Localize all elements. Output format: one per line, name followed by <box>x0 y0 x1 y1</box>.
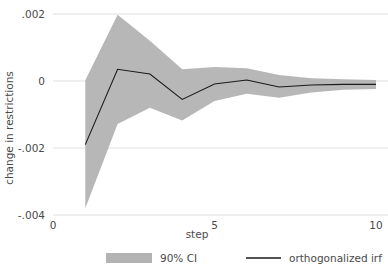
x-axis-title: step <box>186 228 209 240</box>
x-tick-label: 10 <box>369 219 382 231</box>
x-tick-label: 5 <box>211 219 218 231</box>
x-axis-tick-labels: 0510 <box>50 219 383 231</box>
confidence-interval-band <box>85 15 376 209</box>
y-tick-label: -.004 <box>18 209 45 221</box>
legend-swatch-90ci <box>106 253 152 263</box>
y-axis-tick-labels: .0020-.002-.004 <box>18 8 45 221</box>
legend: 90% CI orthogonalized irf <box>106 252 382 264</box>
y-tick-label: 0 <box>38 75 45 87</box>
y-axis-title: change in restrictions <box>3 71 15 185</box>
legend-label-orthogonalized-irf: orthogonalized irf <box>289 252 382 264</box>
y-tick-label: .002 <box>22 8 45 20</box>
y-tick-label: -.002 <box>18 142 45 154</box>
irf-chart: .0020-.002-.004 0510 change in restricti… <box>0 0 388 272</box>
legend-label-90ci: 90% CI <box>160 252 197 264</box>
chart-svg: .0020-.002-.004 0510 change in restricti… <box>0 0 388 272</box>
x-tick-label: 0 <box>50 219 57 231</box>
